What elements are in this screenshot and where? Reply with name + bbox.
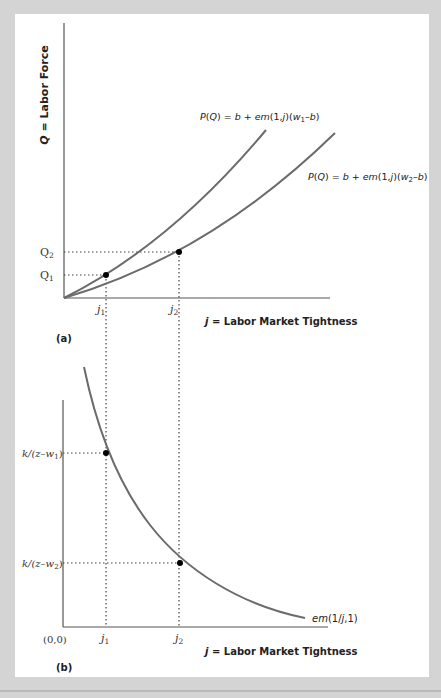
tick-q2: Q2 <box>40 246 54 260</box>
tick-j2-b: j2 <box>172 632 183 646</box>
panel-a-x-axis-title: j = Labor Market Tightness <box>203 316 358 327</box>
curve-em-1-over-j <box>84 367 305 618</box>
figure-panel: Q = Labor Force Q2 Q1 j1 j2 j = Labor Ma… <box>15 14 429 677</box>
page-bottom-rule <box>0 690 441 692</box>
curve-label-upper: P(Q) = b + em(1,j)(w1–b) <box>200 111 319 124</box>
panel-a-y-axis-title: Q = Labor Force <box>38 45 51 144</box>
panel-a: Q = Labor Force Q2 Q1 j1 j2 j = Labor Ma… <box>38 23 427 627</box>
curve-label-em: em(1/j,1) <box>312 613 358 624</box>
curve-label-lower: P(Q) = b + em(1,j)(w2–b) <box>308 171 427 184</box>
panel-b: k/(z–w1) k/(z–w2) (0,0) j1 j2 em(1/j,1) … <box>22 367 358 673</box>
point-j1-w1 <box>103 450 109 456</box>
origin-label: (0,0) <box>43 634 67 645</box>
point-j1-q1 <box>103 272 109 278</box>
point-j2-w2 <box>177 560 183 566</box>
tick-k-z-w1: k/(z–w1) <box>22 448 63 461</box>
point-j2-q2 <box>176 249 182 255</box>
panel-b-x-axis-title: j = Labor Market Tightness <box>203 646 358 657</box>
panel-b-label: (b) <box>56 662 72 673</box>
tick-j1-b: j1 <box>98 632 109 646</box>
tick-k-z-w2: k/(z–w2) <box>22 558 63 571</box>
panel-a-label: (a) <box>56 333 72 344</box>
tick-j2-a: j2 <box>167 303 178 317</box>
tick-q1: Q1 <box>40 269 54 283</box>
figure-svg: Q = Labor Force Q2 Q1 j1 j2 j = Labor Ma… <box>15 14 429 677</box>
tick-j1-a: j1 <box>94 303 105 317</box>
